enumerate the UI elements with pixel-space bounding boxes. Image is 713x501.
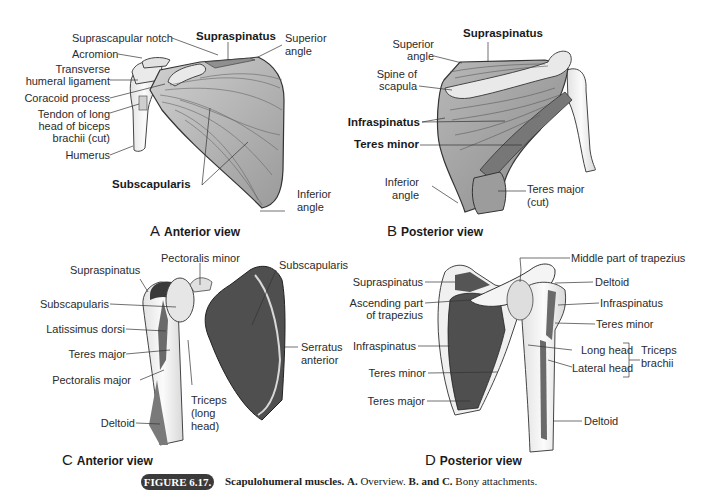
panel-a-title: AAnterior view <box>150 222 240 239</box>
label-triceps-c-2: (long <box>191 407 215 420</box>
label-supraspinatus-c: Supraspinatus <box>70 264 140 277</box>
panel-c-letter: C <box>62 451 73 468</box>
label-pectoralis-major: Pectoralis major <box>52 374 131 387</box>
figure-number-badge: FIGURE 6.17. <box>141 474 214 490</box>
panel-b-view: Posterior view <box>401 225 483 239</box>
label-serratus-2: anterior <box>301 354 338 367</box>
panel-b-title: BPosterior view <box>387 222 483 239</box>
figure-root: Suprascapular notch Supraspinatus Superi… <box>0 0 713 501</box>
label-middle-trapezius: Middle part of trapezius <box>571 252 685 265</box>
label-triceps-d-1: Triceps <box>641 344 677 357</box>
label-spine-1: Spine of <box>377 68 417 81</box>
label-transverse-1: Transverse <box>55 63 110 76</box>
label-teres-major-b-1: Teres major <box>527 183 584 196</box>
label-teres-major-d: Teres major <box>368 395 425 408</box>
label-suprascapular-notch: Suprascapular notch <box>72 32 173 45</box>
label-supraspinatus-d: Supraspinatus <box>353 276 423 289</box>
label-infraspinatus-d-right: Infraspinatus <box>600 297 663 310</box>
label-teres-minor-d-right: Teres minor <box>596 318 653 331</box>
panel-d-title: DPosterior view <box>425 451 522 468</box>
label-subscapularis-a: Subscapularis <box>112 178 191 191</box>
label-superior-angle-a-2: angle <box>285 45 312 58</box>
label-triceps-c-1: Triceps <box>191 394 227 407</box>
label-tendon-3: brachii (cut) <box>53 132 110 145</box>
label-deltoid-d-bottom: Deltoid <box>584 415 618 428</box>
label-lateral-head: Lateral head <box>572 362 633 375</box>
label-superior-angle-b-1: Superior <box>392 38 434 51</box>
label-subscapularis-c-left: Subscapularis <box>40 298 109 311</box>
caption-a-marker: A. <box>347 475 358 487</box>
label-pectoralis-minor: Pectoralis minor <box>161 252 240 265</box>
label-inferior-angle-b-2: angle <box>392 189 419 202</box>
panel-b-letter: B <box>387 222 397 239</box>
label-latissimus-dorsi: Latissimus dorsi <box>46 323 125 336</box>
label-inferior-angle-a-1: Inferior <box>297 188 331 201</box>
label-subscapularis-c-right: Subscapularis <box>279 259 348 272</box>
panel-c-title: CAnterior view <box>62 451 153 468</box>
caption-bc-text: Bony attachments. <box>455 475 537 487</box>
label-tendon-2: head of biceps <box>38 120 110 133</box>
panel-a-view: Anterior view <box>164 225 240 239</box>
label-supraspinatus-b: Supraspinatus <box>463 27 543 40</box>
label-acromion: Acromion <box>72 48 118 61</box>
caption-bc-marker: B. and C. <box>409 475 453 487</box>
label-supraspinatus-a: Supraspinatus <box>196 30 276 43</box>
label-infraspinatus-b: Infraspinatus <box>348 116 420 129</box>
panel-d-letter: D <box>425 451 436 468</box>
label-infraspinatus-d-left: Infraspinatus <box>353 340 416 353</box>
label-spine-2: scapula <box>379 80 417 93</box>
label-teres-minor-b: Teres minor <box>354 138 419 151</box>
label-triceps-c-3: head) <box>191 420 219 433</box>
panel-d-view: Posterior view <box>440 454 522 468</box>
label-tendon-1: Tendon of long <box>38 108 110 121</box>
label-coracoid-process: Coracoid process <box>24 92 110 105</box>
label-deltoid-c: Deltoid <box>101 417 135 430</box>
label-transverse-2: humeral ligament <box>26 75 110 88</box>
label-teres-major-b-2: (cut) <box>527 196 549 209</box>
label-deltoid-d-top: Deltoid <box>595 276 629 289</box>
label-inferior-angle-a-2: angle <box>297 201 324 214</box>
label-humerus: Humerus <box>65 149 110 162</box>
label-inferior-angle-b-1: Inferior <box>385 176 419 189</box>
panel-c-view: Anterior view <box>77 454 153 468</box>
label-ascending-2: of trapezius <box>366 309 423 322</box>
label-superior-angle-b-2: angle <box>407 50 434 63</box>
panel-d-illustration <box>438 264 566 452</box>
caption-title: Scapulohumeral muscles. <box>225 475 344 487</box>
panel-a-letter: A <box>150 222 160 239</box>
label-triceps-d-2: brachii <box>641 357 673 370</box>
label-superior-angle-a-1: Superior <box>285 32 327 45</box>
label-teres-minor-d-left: Teres minor <box>369 367 426 380</box>
label-serratus-1: Serratus <box>301 341 343 354</box>
figure-caption: Scapulohumeral muscles. A. Overview. B. … <box>225 475 537 487</box>
label-teres-major-c: Teres major <box>69 348 126 361</box>
caption-a-text: Overview. <box>360 475 405 487</box>
label-long-head: Long head <box>581 344 633 357</box>
label-ascending-1: Ascending part <box>350 297 423 310</box>
